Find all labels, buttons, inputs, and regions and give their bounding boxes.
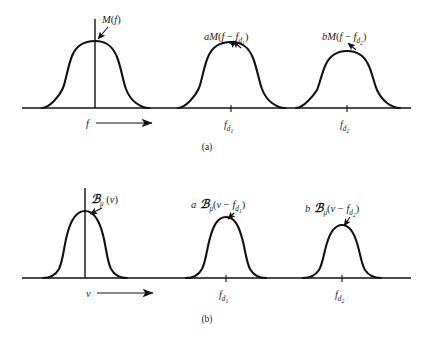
- panel-a-label-shifted-2-group: bM(f − fd2): [322, 31, 367, 50]
- panel-a-label-shifted-1: aM(f − fd1): [204, 31, 249, 46]
- panel-b-leader-shifted-2: [344, 217, 350, 226]
- panel-b-curve-shifted-1: [186, 217, 266, 278]
- panel-a-curve-shifted-2: [296, 51, 400, 108]
- panel-b-label-shifted-2-group: b ℬμ(ν − fd2): [305, 201, 360, 226]
- panel-b-axis-variable-label: ν: [86, 288, 91, 299]
- panel-a-label-main-group: M(f): [98, 14, 121, 39]
- panel-b-caption: (b): [201, 314, 212, 325]
- panel-b-label-shifted-1: a ℬμ(ν − fd1): [191, 197, 246, 214]
- panel-b-leader-main: [90, 208, 102, 214]
- panel-b-label-main-group: ℬμ (ν): [90, 192, 118, 214]
- panel-b-ticklabel-fd2: fd2: [335, 289, 344, 304]
- figure-spectra-doppler-shifted: M(f) aM(f − fd1) bM(f − fd2) f fd1: [0, 0, 426, 337]
- panel-b-curve-shifted-2: [303, 225, 381, 278]
- panel-a-ticklabel-fd1: fd1: [224, 119, 233, 134]
- panel-b-label-shifted-2: b ℬμ(ν − fd2): [305, 201, 360, 218]
- panel-b-label-main: ℬμ (ν): [91, 192, 118, 208]
- panel-a-label-shifted-1-group: aM(f − fd1): [204, 31, 249, 48]
- panel-b-label-shifted-1-group: a ℬμ(ν − fd1): [191, 197, 246, 219]
- panel-a-axis-variable-label: f: [86, 118, 91, 129]
- panel-b-axis-variable-group: ν: [86, 288, 153, 299]
- panel-a-curve-shifted-1: [178, 42, 285, 108]
- panel-a-label-main: M(f): [101, 14, 121, 26]
- panel-a-ticklabel-fd2: fd2: [340, 119, 349, 134]
- panel-b-ticklabel-fd1: fd1: [219, 289, 228, 304]
- panel-a: M(f) aM(f − fd1) bM(f − fd2) f fd1: [22, 14, 411, 153]
- panel-b: ℬμ (ν) a ℬμ(ν − fd1) b ℬμ(ν − fd2) ν fd1: [22, 188, 411, 325]
- panel-a-label-shifted-2: bM(f − fd2): [322, 31, 367, 46]
- panel-a-axis-variable-group: f: [86, 118, 152, 129]
- panel-a-leader-main: [98, 27, 108, 39]
- panel-a-leader-shifted-2: [348, 43, 356, 50]
- panel-a-caption: (a): [202, 142, 213, 153]
